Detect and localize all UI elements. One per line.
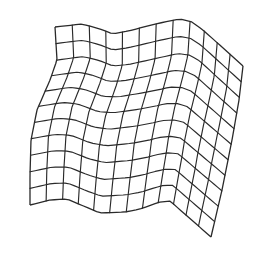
grid-column-line bbox=[46, 25, 73, 201]
grid-column-line bbox=[126, 24, 156, 212]
warped-grid-diagram bbox=[0, 0, 259, 256]
grid-row-line bbox=[30, 199, 211, 237]
grid-row-line bbox=[56, 37, 241, 82]
grid-column-line bbox=[142, 20, 173, 208]
grid-column-line bbox=[158, 22, 190, 203]
grid-column-line bbox=[211, 66, 243, 237]
grid-column-line bbox=[94, 32, 123, 210]
grid-column-line bbox=[63, 26, 91, 199]
grid-column-line bbox=[199, 54, 231, 226]
grid-column-line bbox=[110, 28, 140, 212]
grid-mesh bbox=[30, 19, 243, 237]
